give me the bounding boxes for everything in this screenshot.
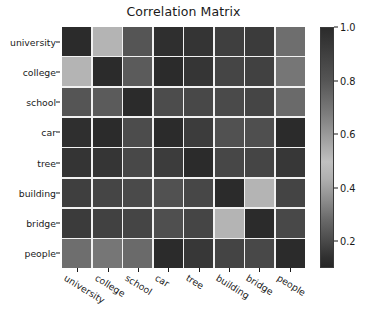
colorbar-tick-mark [334, 27, 338, 28]
heatmap-cell [215, 88, 244, 117]
x-tick-label-school: school [123, 272, 154, 297]
heatmap-grid [62, 27, 305, 268]
heatmap-cell [62, 27, 91, 56]
heatmap-cell [184, 239, 213, 268]
y-tick-mark [56, 72, 60, 73]
heatmap-cell [62, 88, 91, 117]
y-tick-mark [56, 222, 60, 223]
heatmap-cell [184, 118, 213, 147]
heatmap-cell [154, 239, 183, 268]
x-tick-mark [199, 268, 200, 272]
heatmap-cell [276, 148, 305, 177]
heatmap-cell [93, 118, 122, 147]
x-tick-mark [108, 268, 109, 272]
y-tick-label-school: school [0, 97, 56, 108]
y-tick-label-college: college [0, 67, 56, 78]
x-tick-mark [290, 268, 291, 272]
heatmap-cell [123, 27, 152, 56]
heatmap-cell [62, 179, 91, 208]
x-tick-label-tree: tree [184, 272, 206, 291]
y-tick-label-tree: tree [0, 157, 56, 168]
heatmap-cell [245, 57, 274, 86]
heatmap-cell [93, 27, 122, 56]
heatmap-cell [62, 239, 91, 268]
heatmap-cell [245, 148, 274, 177]
heatmap-cell [215, 179, 244, 208]
heatmap-cell [184, 88, 213, 117]
heatmap-cell [215, 209, 244, 238]
heatmap-cell [62, 57, 91, 86]
colorbar [320, 27, 334, 268]
heatmap-cell [123, 239, 152, 268]
heatmap-cell [245, 118, 274, 147]
heatmap-axes [62, 27, 305, 268]
heatmap-cell [123, 118, 152, 147]
y-tick-label-people: people [0, 247, 56, 258]
x-axis-tick-labels: universitycollegeschoolcartreebuildingbr… [62, 268, 305, 315]
correlation-matrix-figure: Correlation Matrix universitycollegescho… [0, 0, 372, 315]
x-tick-label-people: people [275, 272, 308, 298]
heatmap-cell [154, 88, 183, 117]
heatmap-cell [184, 209, 213, 238]
y-tick-label-bridge: bridge [0, 217, 56, 228]
colorbar-tick-label: 0.8 [340, 75, 356, 86]
heatmap-cell [276, 209, 305, 238]
y-tick-mark [56, 162, 60, 163]
heatmap-cell [154, 118, 183, 147]
heatmap-cell [123, 179, 152, 208]
heatmap-cell [276, 118, 305, 147]
x-tick-mark [259, 268, 260, 272]
heatmap-cell [62, 148, 91, 177]
heatmap-cell [93, 209, 122, 238]
heatmap-cell [245, 239, 274, 268]
heatmap-cell [276, 88, 305, 117]
heatmap-cell [154, 27, 183, 56]
colorbar-gradient [321, 28, 333, 267]
heatmap-cell [93, 148, 122, 177]
colorbar-tick-mark [334, 241, 338, 242]
colorbar-tick-label: 1.0 [340, 22, 356, 33]
heatmap-cell [154, 179, 183, 208]
heatmap-cell [245, 27, 274, 56]
heatmap-cell [215, 148, 244, 177]
x-tick-label-car: car [153, 272, 171, 289]
heatmap-cell [276, 57, 305, 86]
y-tick-mark [56, 252, 60, 253]
x-tick-mark [77, 268, 78, 272]
heatmap-cell [154, 209, 183, 238]
heatmap-cell [62, 118, 91, 147]
x-tick-mark [168, 268, 169, 272]
heatmap-cell [184, 57, 213, 86]
y-tick-mark [56, 42, 60, 43]
heatmap-cell [93, 179, 122, 208]
heatmap-cell [215, 57, 244, 86]
colorbar-tick-mark [334, 80, 338, 81]
heatmap-cell [154, 148, 183, 177]
colorbar-tick-label: 0.2 [340, 236, 356, 247]
y-tick-label-building: building [0, 187, 56, 198]
heatmap-cell [123, 209, 152, 238]
heatmap-cell [245, 179, 274, 208]
heatmap-cell [93, 239, 122, 268]
heatmap-cell [184, 27, 213, 56]
heatmap-cell [215, 239, 244, 268]
heatmap-cell [154, 57, 183, 86]
heatmap-cell [62, 209, 91, 238]
heatmap-cell [123, 88, 152, 117]
y-tick-mark [56, 132, 60, 133]
heatmap-cell [276, 179, 305, 208]
page-title: Correlation Matrix [62, 4, 305, 19]
heatmap-cell [215, 118, 244, 147]
x-tick-mark [229, 268, 230, 272]
colorbar-tick-label: 0.6 [340, 129, 356, 140]
heatmap-cell [93, 88, 122, 117]
heatmap-cell [123, 57, 152, 86]
heatmap-cell [276, 239, 305, 268]
x-tick-mark [138, 268, 139, 272]
colorbar-tick-label: 0.4 [340, 182, 356, 193]
colorbar-tick-mark [334, 134, 338, 135]
heatmap-cell [245, 209, 274, 238]
heatmap-cell [184, 179, 213, 208]
y-tick-mark [56, 192, 60, 193]
heatmap-cell [215, 27, 244, 56]
